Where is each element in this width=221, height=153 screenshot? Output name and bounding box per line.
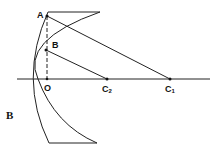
inner-surface — [35, 12, 100, 143]
label-C1: C1 — [165, 84, 176, 94]
ray-B-C2 — [46, 50, 107, 79]
label-B: B — [52, 40, 59, 50]
label-C2: C2 — [102, 84, 113, 94]
point-C1 — [169, 78, 172, 81]
ray-A-C1 — [47, 16, 170, 79]
point-O — [46, 78, 49, 81]
optics-diagram: A B O C2 C1 B — [0, 0, 221, 153]
point-C2 — [106, 78, 109, 81]
point-A — [46, 15, 49, 18]
label-A: A — [37, 10, 44, 20]
point-B — [45, 49, 48, 52]
label-O: O — [44, 83, 51, 93]
panel-label: B — [6, 109, 14, 121]
